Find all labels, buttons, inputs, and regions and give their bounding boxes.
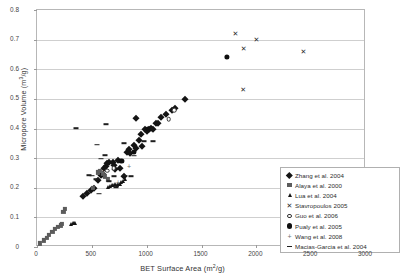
data-point-circle-open [172, 108, 177, 113]
data-point-plus: + [116, 179, 120, 186]
x-tick-mark [92, 245, 93, 248]
x-tick-label: 1500 [186, 250, 216, 257]
data-point-dash [287, 246, 292, 248]
x-tick-mark [147, 245, 148, 248]
x-tick-label: 0 [21, 250, 51, 257]
data-point-dash [131, 155, 136, 157]
data-point-dash [94, 144, 99, 146]
x-tick-label: 1000 [131, 250, 161, 257]
data-point-cross: ✕ [301, 47, 307, 54]
data-point-dash [86, 175, 91, 177]
data-point-plus: + [101, 169, 105, 176]
gridline [37, 158, 364, 159]
y-tick-label: 0 [0, 243, 19, 250]
data-point-diamond [182, 96, 188, 102]
y-axis-title-superscript: 3 [18, 77, 24, 80]
x-axis-title-main: BET Surface Area (m [140, 264, 213, 273]
y-tick-label: 0.7 [0, 35, 19, 42]
x-tick-label: 3000 [350, 250, 380, 257]
legend-item-label: Pualy et al. 2005 [295, 223, 342, 230]
data-point-cross: ✕ [233, 30, 239, 37]
data-point-dash [111, 176, 116, 178]
data-point-circle-filled [119, 158, 124, 163]
legend-marker-icon [284, 173, 295, 178]
legend-marker-icon [284, 214, 295, 219]
data-point-dash [74, 127, 79, 129]
gridline [37, 99, 364, 100]
y-tick-label: 0.3 [0, 154, 19, 161]
legend-item-label: Wang et al. 2008 [295, 233, 342, 240]
legend-item-square[interactable]: Alaya et al. 2000 [284, 180, 396, 190]
y-tick-mark [34, 158, 37, 159]
legend-item-circle-filled[interactable]: Pualy et al. 2005 [284, 221, 396, 231]
legend-item-label: Guo et al. 2006 [295, 212, 338, 219]
x-axis-title: BET Surface Area (m2/g) [0, 263, 365, 273]
y-tick-mark [34, 129, 37, 130]
x-tick-mark [256, 245, 257, 248]
data-point-dash [102, 154, 107, 156]
data-point-triangle [123, 177, 127, 181]
legend-marker-icon [284, 193, 295, 197]
legend-item-circle-open[interactable]: Guo et al. 2006 [284, 211, 396, 221]
y-tick-label: 0.2 [0, 183, 19, 190]
data-point-diamond [117, 164, 123, 170]
data-point-circle-open [111, 166, 116, 171]
x-tick-label: 500 [76, 250, 106, 257]
data-point-diamond [133, 115, 139, 121]
data-point-square [60, 222, 64, 226]
y-tick-label: 0.4 [0, 124, 19, 131]
y-tick-mark [34, 69, 37, 70]
data-point-dash [103, 123, 108, 125]
legend-marker-icon [284, 246, 295, 248]
data-point-triangle [288, 193, 292, 197]
legend-item-cross[interactable]: ✕Stavropoulos 2005 [284, 201, 396, 211]
plot-area: ✕✕✕✕✕+++ Zhang et al. 2004Alaya et al. 2… [36, 9, 365, 246]
legend-item-diamond[interactable]: Zhang et al. 2004 [284, 170, 396, 180]
y-tick-mark [34, 217, 37, 218]
y-tick-mark [34, 188, 37, 189]
gridline [37, 129, 364, 130]
data-point-cross: ✕ [240, 85, 246, 92]
data-point-cross: ✕ [241, 44, 247, 51]
data-point-plus: + [287, 233, 291, 240]
data-point-plus: + [127, 163, 131, 170]
legend-item-label: Alaya et al. 2000 [295, 182, 342, 189]
gridline [37, 40, 364, 41]
data-point-circle-open [287, 214, 292, 219]
data-point-circle-open [166, 117, 171, 122]
data-point-square [287, 183, 291, 187]
data-point-dash [113, 186, 118, 188]
legend-item-label: Stavropoulos 2005 [295, 202, 347, 209]
y-tick-label: 0.8 [0, 6, 19, 13]
data-point-dash [142, 140, 147, 142]
y-axis-title-tail: /g) [19, 68, 28, 77]
x-tick-mark [202, 245, 203, 248]
y-tick-label: 0.6 [0, 65, 19, 72]
chart-legend: Zhang et al. 2004Alaya et al. 2000Lua et… [280, 167, 400, 253]
legend-item-triangle[interactable]: Lua et al. 2004 [284, 190, 396, 200]
data-point-cross: ✕ [287, 202, 293, 209]
legend-item-label: Zhang et al. 2004 [295, 172, 344, 179]
data-point-dash [96, 193, 101, 195]
x-axis-title-tail: /g) [216, 264, 225, 273]
legend-marker-icon [284, 183, 295, 187]
y-tick-label: 0.5 [0, 94, 19, 101]
data-point-diamond [139, 143, 145, 149]
y-tick-mark [34, 99, 37, 100]
data-point-circle-filled [131, 149, 136, 154]
legend-item-label: Lua et al. 2004 [295, 192, 337, 199]
legend-item-plus[interactable]: +Wang et al. 2008 [284, 231, 396, 241]
y-axis-title: Micropore Volume (m3/g) [18, 29, 28, 189]
data-point-dash [129, 176, 134, 178]
data-point-triangle [73, 221, 77, 225]
data-point-dash [121, 143, 126, 145]
y-tick-mark [34, 40, 37, 41]
data-point-circle-filled [287, 223, 292, 228]
gridline [37, 69, 364, 70]
data-point-square [91, 186, 95, 190]
data-point-circle-filled [224, 54, 229, 59]
data-point-dash [107, 180, 112, 182]
data-point-diamond [286, 172, 292, 178]
x-tick-label: 2500 [295, 250, 325, 257]
